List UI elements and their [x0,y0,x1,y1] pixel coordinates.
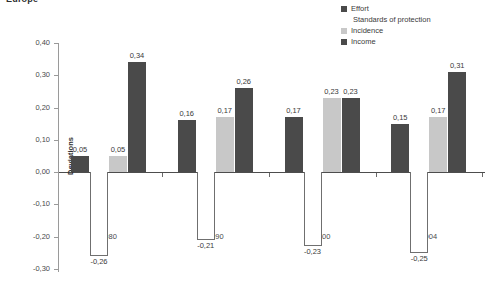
y-axis-tick: 0,10 [54,140,59,141]
y-axis-tick-label: 0,00 [35,167,50,176]
legend-item-standards-of-protection[interactable]: Standards of protection [341,15,486,25]
bar-value-label: 0,26 [236,77,251,86]
y-axis-tick: -0,10 [54,204,59,205]
x-axis-tick [482,173,483,177]
y-axis-tick: -0,20 [54,237,59,238]
bar-chart: Europe EffortStandards of protectionInci… [0,0,491,294]
x-axis-tick [269,173,270,177]
y-axis-tick: 0,20 [54,108,59,109]
bar-value-label: 0,17 [286,106,301,115]
legend-item-label: Standards of protection [353,15,431,25]
bar-value-label: 0,31 [450,61,465,70]
y-axis-tick-label: -0,10 [33,199,50,208]
bar-effort-2004[interactable] [391,124,409,172]
bar-incidence-2000[interactable] [323,98,341,172]
y-axis-tick: 0,00 [54,172,59,173]
bar-incidence-2004[interactable] [429,117,447,172]
y-axis-line [58,43,59,272]
bar-incidence-1980[interactable] [109,156,127,172]
bar-standards-of-protection-1990[interactable] [197,172,215,240]
y-axis-tick-label: -0,30 [33,264,50,273]
y-axis-tick-label: -0,20 [33,232,50,241]
x-axis-tick [376,173,377,177]
bar-value-label: 0,17 [431,106,446,115]
bar-effort-1990[interactable] [178,120,196,172]
legend-swatch-icon [341,28,347,34]
bar-value-label: -0,23 [304,247,321,256]
bar-value-label: 0,17 [217,106,232,115]
bar-value-label: 0,16 [179,109,194,118]
bar-effort-2000[interactable] [285,117,303,172]
bar-value-label: 0,23 [343,87,358,96]
legend-swatch-icon [341,6,347,12]
bar-standards-of-protection-2000[interactable] [304,172,322,246]
legend-item-effort[interactable]: Effort [341,4,486,14]
legend-item-label: Effort [351,4,369,14]
y-axis-tick-label: 0,30 [35,70,50,79]
bar-standards-of-protection-2004[interactable] [410,172,428,253]
bar-incidence-1990[interactable] [216,117,234,172]
bar-value-label: -0,25 [411,254,428,263]
bar-income-2004[interactable] [448,72,466,172]
x-axis-tick [162,173,163,177]
bar-income-1980[interactable] [128,62,146,172]
legend-swatch-icon [341,16,349,24]
legend-item-incidence[interactable]: Incidence [341,26,486,36]
bar-value-label: 0,05 [73,145,88,154]
bar-value-label: -0,21 [197,241,214,250]
bar-value-label: 0,05 [111,145,126,154]
bar-income-1990[interactable] [235,88,253,172]
y-axis-tick-label: 0,10 [35,135,50,144]
y-axis-tick: -0,30 [54,269,59,270]
bar-value-label: 0,23 [324,87,339,96]
chart-title: Europe [6,0,38,4]
y-axis-tick: 0,40 [54,43,59,44]
plot-area: Deviations 0,400,300,200,100,00-0,10-0,2… [58,40,485,272]
bar-income-2000[interactable] [342,98,360,172]
bar-standards-of-protection-1980[interactable] [90,172,108,256]
y-axis-tick: 0,30 [54,75,59,76]
y-axis-tick-label: 0,40 [35,38,50,47]
bar-value-label: -0,26 [90,257,107,266]
bar-value-label: 0,15 [393,113,408,122]
legend-item-label: Incidence [351,26,383,36]
bar-value-label: 0,34 [130,51,145,60]
bar-effort-1980[interactable] [71,156,89,172]
y-axis-tick-label: 0,20 [35,103,50,112]
